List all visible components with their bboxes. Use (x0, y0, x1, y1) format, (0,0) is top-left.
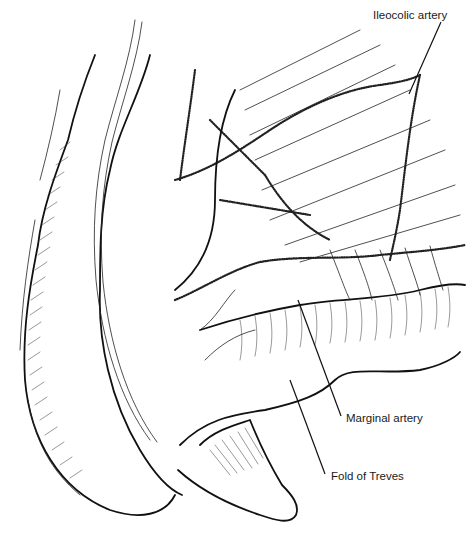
ileocolic-arcade-upper (175, 75, 420, 180)
ileocolic-artery (390, 75, 420, 260)
marginal-artery-arcade (175, 245, 465, 300)
marginal-artery-label: Marginal artery (346, 413, 423, 425)
fold-of-treves-label: Fold of Treves (331, 471, 404, 483)
mesocolon-fold (200, 290, 255, 360)
ileum-upper-outline (200, 284, 465, 330)
appendix-outline (178, 420, 297, 521)
ileocolic-leader-line (409, 22, 441, 94)
ileum-folds (240, 287, 450, 360)
ileocolic-artery-label: Ileocolic artery (373, 10, 447, 22)
ileocecal-drawing (0, 0, 472, 534)
colon-inner-contour (100, 55, 182, 495)
mesocolon-edge (175, 90, 235, 290)
treves-leader-line (290, 380, 325, 474)
appendix-mesentery-hatching (210, 428, 263, 475)
colic-branches (180, 70, 330, 240)
anatomy-illustration: Ileocolic artery Marginal artery Fold of… (0, 0, 472, 534)
colon-shading (28, 142, 82, 478)
